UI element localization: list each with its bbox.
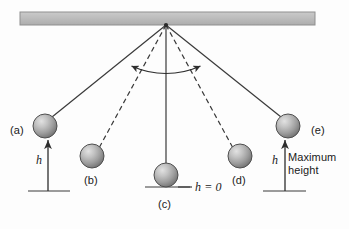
string-e [166,25,281,117]
position-label-b: (b) [84,174,98,187]
position-label-c: (c) [158,198,171,211]
bob-a [33,114,57,138]
bob-d [228,144,252,168]
maximum-height-line1: Maximum [288,151,336,164]
height-label-a: h [36,153,42,167]
string-d [166,25,233,148]
bob-c [154,163,178,187]
bob-b [80,144,104,168]
height-label-e: h [272,153,278,167]
zero-height-label: h = 0 [195,180,222,194]
position-label-e: (e) [311,124,325,137]
string-a [52,25,166,117]
maximum-height-line2: height [288,164,319,177]
pendulum-figure: (a) (b) (c) (d) (e) h h h = 0 Maximum he… [0,0,349,229]
position-label-d: (d) [232,174,246,187]
support-bar [20,12,315,25]
string-b [99,25,166,148]
pivot-point [164,23,168,27]
position-label-a: (a) [10,124,24,137]
reference-lines [28,187,306,191]
bob-e [276,114,300,138]
pendulum-diagram-svg [0,0,349,229]
